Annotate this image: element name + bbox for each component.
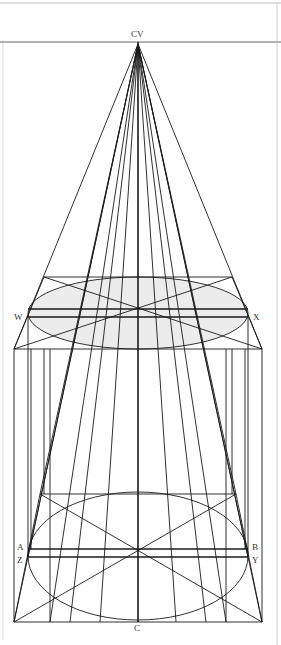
label-c: C	[134, 624, 140, 633]
perspective-diagram: CV W X A Z B Y C	[0, 0, 281, 645]
label-a: A	[17, 543, 24, 552]
label-b: B	[252, 543, 258, 552]
label-w: W	[14, 313, 23, 322]
label-x: X	[253, 313, 260, 322]
diagram-canvas	[0, 0, 281, 645]
label-y: Y	[252, 556, 259, 565]
label-cv: CV	[131, 30, 144, 39]
label-z: Z	[17, 556, 23, 565]
